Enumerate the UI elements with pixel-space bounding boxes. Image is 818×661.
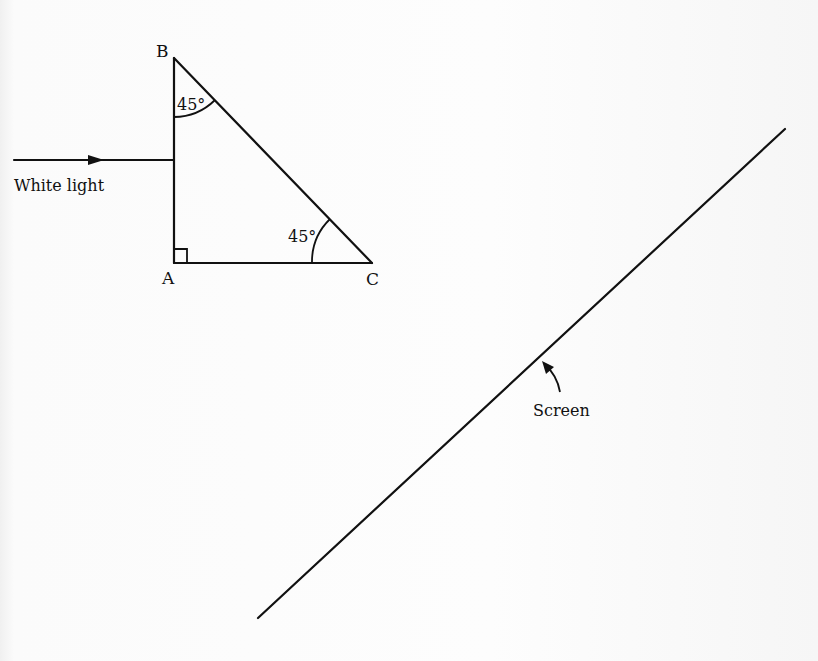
screen-label: Screen bbox=[533, 401, 590, 420]
vertex-label-b: B bbox=[156, 41, 169, 61]
angle-label-b: 45° bbox=[177, 95, 205, 114]
prism-hypotenuse-bc bbox=[174, 58, 372, 263]
screen-line bbox=[258, 129, 785, 618]
incident-ray: White light bbox=[14, 155, 174, 195]
vertex-label-a: A bbox=[161, 268, 175, 288]
prism: B A C 45° 45° bbox=[156, 41, 379, 289]
prism-diagram: B A C 45° 45° White light Screen bbox=[0, 0, 818, 661]
screen: Screen bbox=[258, 129, 785, 618]
incident-ray-label: White light bbox=[14, 176, 105, 195]
arrow-right-icon bbox=[88, 155, 104, 165]
vertex-label-c: C bbox=[366, 269, 379, 289]
diagram-canvas: B A C 45° 45° White light Screen bbox=[0, 0, 818, 661]
angle-label-c: 45° bbox=[288, 227, 316, 246]
right-angle-marker-icon bbox=[174, 249, 187, 263]
